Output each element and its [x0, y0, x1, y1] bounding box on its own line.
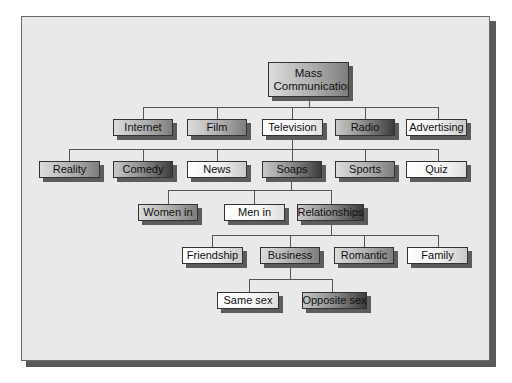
node-internet: Internet — [113, 119, 173, 136]
node-family: Family — [407, 247, 468, 264]
node-label: Internet — [124, 122, 161, 134]
node-label: Business — [268, 250, 313, 262]
node-label: News — [203, 164, 231, 176]
node-sports: Sports — [335, 161, 395, 178]
connector — [217, 149, 218, 161]
connector — [438, 149, 439, 161]
node-label: Comedy — [123, 164, 164, 176]
connector — [438, 235, 439, 247]
node-advertising: Advertising — [406, 119, 467, 136]
node-label: Quiz — [425, 164, 448, 176]
node-label: Reality — [53, 164, 87, 176]
connector — [249, 279, 250, 292]
node-romantic: Romantic — [334, 247, 394, 264]
node-label: Opposite sex — [302, 295, 366, 307]
connector — [331, 190, 332, 204]
connector — [438, 107, 439, 119]
node-label: Radio — [351, 122, 380, 134]
connector — [249, 279, 333, 280]
node-label: Friendship — [187, 250, 238, 262]
connector — [292, 107, 293, 119]
node-label: Film — [207, 122, 228, 134]
node-television: Television — [262, 119, 323, 136]
node-opposite-sex: Opposite sex — [302, 292, 367, 309]
node-label: Romantic — [341, 250, 387, 262]
node-label: Mass Communication — [274, 67, 344, 91]
connector — [212, 235, 213, 247]
node-mass-communication: Mass Communication — [268, 62, 349, 97]
node-film: Film — [187, 119, 247, 136]
node-same-sex: Same sex — [217, 292, 279, 309]
connector — [69, 149, 439, 150]
connector — [290, 235, 291, 247]
node-reality: Reality — [39, 161, 100, 178]
connector — [365, 149, 366, 161]
connector — [69, 149, 70, 161]
node-label: Relationships — [297, 207, 363, 219]
node-comedy: Comedy — [113, 161, 173, 178]
connector — [143, 149, 144, 161]
node-label: Sports — [349, 164, 381, 176]
node-label: Soaps — [276, 164, 307, 176]
connector — [364, 235, 365, 247]
node-news: News — [187, 161, 247, 178]
node-label: Men in — [238, 207, 271, 219]
node-label: Family — [421, 250, 453, 262]
node-business: Business — [260, 247, 320, 264]
connector — [143, 107, 144, 119]
connector — [254, 190, 255, 204]
node-label: Women in — [143, 207, 192, 219]
connector — [365, 107, 366, 119]
node-label: Advertising — [409, 122, 463, 134]
node-label: Same sex — [224, 295, 273, 307]
node-friendship: Friendship — [182, 247, 243, 264]
node-soaps: Soaps — [262, 161, 322, 178]
node-men-in: Men in — [224, 204, 285, 221]
connector — [332, 279, 333, 292]
node-label: Television — [268, 122, 316, 134]
node-women-in: Women in — [138, 204, 198, 221]
node-relationships: Relationships — [297, 204, 364, 221]
connector — [168, 190, 169, 204]
connector — [143, 107, 439, 108]
connector — [217, 107, 218, 119]
connector — [168, 190, 332, 191]
node-quiz: Quiz — [406, 161, 467, 178]
node-radio: Radio — [335, 119, 395, 136]
connector — [212, 235, 439, 236]
